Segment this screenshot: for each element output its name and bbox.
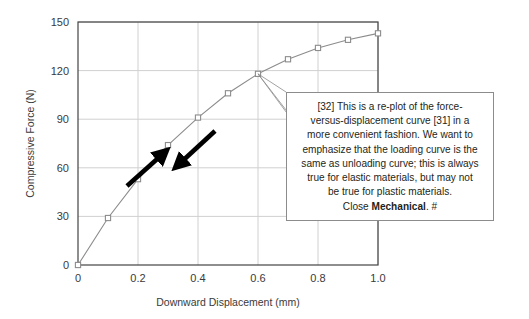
close-suffix: . # [426, 201, 437, 212]
y-tick-label: 90 [57, 113, 69, 125]
y-tick-label: 120 [51, 65, 69, 77]
callout-line-4: emphasize that the loading curve is the [294, 143, 486, 157]
callout-line-5: same as unloading curve; this is always [294, 157, 486, 171]
y-tick-label: 60 [57, 162, 69, 174]
unloading-arrow [177, 131, 215, 166]
figure-container: 030609012015000.20.40.60.81.0Downward Di… [0, 0, 529, 319]
callout-line-6: true for elastic materials, but may not [294, 171, 486, 185]
callout-line-1: [32] This is a re-plot of the force- [294, 100, 486, 114]
data-point-marker [75, 262, 80, 267]
data-point-marker [225, 91, 230, 96]
y-tick-label: 0 [63, 259, 69, 271]
data-point-marker [315, 45, 320, 50]
x-tick-label: 1.0 [370, 272, 385, 284]
data-point-marker [105, 215, 110, 220]
loading-arrow [127, 152, 165, 186]
data-point-marker [375, 31, 380, 36]
callout-close-line: Close Mechanical. # [294, 200, 486, 214]
close-bold-mechanical: Mechanical [371, 201, 425, 212]
y-tick-label: 150 [51, 16, 69, 28]
callout-box: [32] This is a re-plot of the force- ver… [286, 92, 494, 221]
data-point-marker [345, 37, 350, 42]
callout-line-2: versus-displacement curve [31] in a [294, 114, 486, 128]
x-tick-label: 0.6 [250, 272, 265, 284]
x-tick-label: 0.2 [130, 272, 145, 284]
callout-line-3: more convenient fashion. We want to [294, 128, 486, 142]
y-tick-label: 30 [57, 210, 69, 222]
close-prefix: Close [343, 201, 372, 212]
y-axis-title: Compressive Force (N) [24, 89, 36, 198]
data-point-marker [165, 143, 170, 148]
callout-leader-line [258, 74, 286, 92]
data-point-marker [285, 57, 290, 62]
x-axis-title: Downward Displacement (mm) [156, 296, 300, 308]
callout-line-7: be true for plastic materials. [294, 185, 486, 199]
data-point-marker [195, 115, 200, 120]
x-tick-label: 0 [75, 272, 81, 284]
x-tick-label: 0.4 [190, 272, 205, 284]
x-tick-label: 0.8 [310, 272, 325, 284]
